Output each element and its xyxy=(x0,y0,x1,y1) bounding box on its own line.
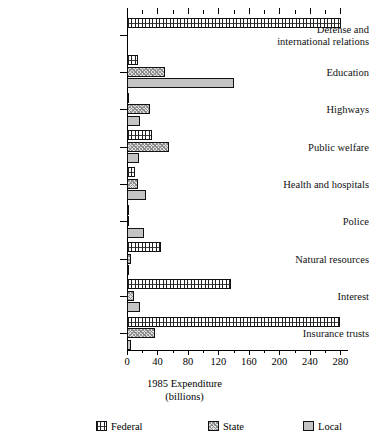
federal-swatch-icon xyxy=(96,421,107,431)
top-tick-140 xyxy=(234,10,235,14)
legend-item-federal: Federal xyxy=(96,421,143,432)
legend-item-state: State xyxy=(208,421,244,432)
bar-local-4 xyxy=(127,190,146,200)
top-tick-0 xyxy=(127,8,128,14)
category-label-line1: Public welfare xyxy=(251,142,369,154)
legend-label-federal: Federal xyxy=(111,421,143,432)
x-tick-major-160 xyxy=(249,350,250,355)
category-label-5: Police xyxy=(251,216,369,228)
category-tick-8 xyxy=(120,333,127,334)
x-tick-label-240: 240 xyxy=(295,356,325,367)
category-label-7: Interest xyxy=(251,291,369,303)
bar-state-5 xyxy=(127,216,129,226)
bar-federal-0 xyxy=(127,18,341,28)
x-tick-major-280 xyxy=(340,350,341,355)
x-tick-major-120 xyxy=(218,350,219,355)
x-tick-minor-60 xyxy=(173,350,174,353)
top-tick-160 xyxy=(249,8,250,14)
category-label-4: Health and hospitals xyxy=(251,179,369,191)
top-tick-240 xyxy=(310,8,311,14)
local-swatch-icon xyxy=(303,421,314,431)
bar-local-2 xyxy=(127,116,140,126)
top-tick-100 xyxy=(203,10,204,14)
bar-federal-4 xyxy=(127,167,135,177)
category-tick-3 xyxy=(120,147,127,148)
bar-state-3 xyxy=(127,142,169,152)
bar-local-3 xyxy=(127,153,139,163)
state-swatch-icon xyxy=(208,421,219,431)
x-tick-label-160: 160 xyxy=(234,356,264,367)
category-label-line2: international relations xyxy=(251,36,369,48)
x-tick-label-0: 0 xyxy=(112,356,142,367)
category-label-6: Natural resources xyxy=(251,254,369,266)
category-tick-1 xyxy=(120,72,127,73)
x-tick-major-80 xyxy=(188,350,189,355)
x-tick-minor-140 xyxy=(234,350,235,353)
category-tick-2 xyxy=(120,109,127,110)
x-tick-label-200: 200 xyxy=(264,356,294,367)
bar-local-8 xyxy=(127,340,131,350)
x-axis-line xyxy=(127,350,348,351)
bar-state-6 xyxy=(127,254,131,264)
x-tick-minor-100 xyxy=(203,350,204,353)
bar-federal-8 xyxy=(127,317,340,327)
category-label-line1: Natural resources xyxy=(251,254,369,266)
bar-local-7 xyxy=(127,302,140,312)
x-tick-major-200 xyxy=(279,350,280,355)
bar-local-6 xyxy=(127,265,129,275)
top-tick-280 xyxy=(340,8,341,14)
category-label-3: Public welfare xyxy=(251,142,369,154)
bar-federal-5 xyxy=(127,205,129,215)
bar-state-1 xyxy=(127,67,165,77)
bar-federal-6 xyxy=(127,242,161,252)
x-tick-major-0 xyxy=(127,350,128,355)
category-tick-4 xyxy=(120,184,127,185)
bar-federal-3 xyxy=(127,130,152,140)
x-axis-title-line1: 1985 Expenditure xyxy=(0,378,369,390)
category-tick-6 xyxy=(120,259,127,260)
top-tick-60 xyxy=(173,10,174,14)
category-tick-0 xyxy=(120,35,127,36)
bar-federal-7 xyxy=(127,279,231,289)
category-label-line1: Highways xyxy=(251,104,369,116)
top-tick-80 xyxy=(188,8,189,14)
x-tick-label-280: 280 xyxy=(325,356,355,367)
x-tick-minor-220 xyxy=(295,350,296,353)
category-tick-5 xyxy=(120,221,127,222)
bar-federal-2 xyxy=(127,93,129,103)
top-tick-200 xyxy=(279,8,280,14)
x-tick-minor-180 xyxy=(264,350,265,353)
x-axis-title-line2: (billions) xyxy=(0,391,369,403)
legend-label-local: Local xyxy=(318,421,342,432)
bar-state-2 xyxy=(127,104,150,114)
category-label-line1: Education xyxy=(251,67,369,79)
x-tick-major-240 xyxy=(310,350,311,355)
bar-state-4 xyxy=(127,179,138,189)
category-label-line1: Insurance trusts xyxy=(251,328,369,340)
category-label-2: Highways xyxy=(251,104,369,116)
top-tick-120 xyxy=(218,8,219,14)
bar-state-7 xyxy=(127,291,134,301)
legend-label-state: State xyxy=(223,421,244,432)
top-tick-20 xyxy=(142,10,143,14)
bar-local-1 xyxy=(127,78,234,88)
category-label-8: Insurance trusts xyxy=(251,328,369,340)
top-tick-40 xyxy=(157,8,158,14)
bar-state-8 xyxy=(127,328,155,338)
legend: Federal State Local xyxy=(0,421,369,437)
x-tick-label-80: 80 xyxy=(173,356,203,367)
x-tick-minor-260 xyxy=(325,350,326,353)
category-label-line1: Interest xyxy=(251,291,369,303)
x-tick-minor-20 xyxy=(142,350,143,353)
bar-local-5 xyxy=(127,228,144,238)
top-tick-220 xyxy=(295,10,296,14)
bar-federal-1 xyxy=(127,55,138,65)
category-label-1: Education xyxy=(251,67,369,79)
legend-item-local: Local xyxy=(303,421,342,432)
grouped-horizontal-bar-chart: Defense andinternational relationsEducat… xyxy=(0,0,369,444)
category-label-line1: Police xyxy=(251,216,369,228)
top-tick-260 xyxy=(325,10,326,14)
category-label-line1: Health and hospitals xyxy=(251,179,369,191)
top-tick-180 xyxy=(264,10,265,14)
x-tick-major-40 xyxy=(157,350,158,355)
